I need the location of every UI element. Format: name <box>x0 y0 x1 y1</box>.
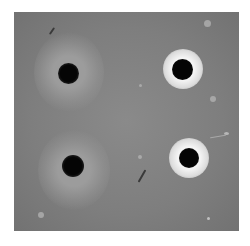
fiber-debris <box>138 169 147 182</box>
well-bottom-right <box>179 148 199 168</box>
well-top-left <box>58 63 79 84</box>
speck <box>138 155 142 159</box>
speck <box>207 217 210 220</box>
well-top-right <box>172 59 193 80</box>
speck <box>210 96 216 102</box>
fiber-debris <box>210 135 226 139</box>
fiber-debris <box>49 27 55 35</box>
agar-plate-photo <box>14 12 239 231</box>
speck <box>139 84 142 87</box>
well-bottom-left <box>62 155 84 177</box>
speck <box>204 20 211 27</box>
speck <box>38 212 44 218</box>
